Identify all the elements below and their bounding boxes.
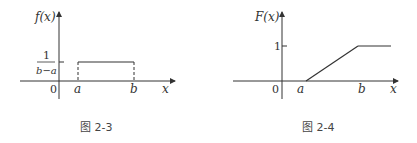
caption-fig-2-4: 图 2-4 (302, 121, 334, 134)
x-tick-a: a (297, 82, 304, 96)
x-tick-a: a (74, 82, 81, 96)
figure-2-4-cdf: F(x) 1 0 a b x 图 2-4 (233, 10, 398, 134)
y-axis-label: f(x) (34, 10, 56, 24)
frac-denominator: b−a (36, 65, 57, 76)
x-axis-label: x (162, 82, 169, 96)
origin-label: 0 (50, 83, 57, 96)
y-axis-label: F(x) (254, 10, 280, 24)
x-axis-label: x (390, 82, 397, 96)
figure-2-3-density: f(x) 1 b−a 0 a b x 图 2-3 (20, 10, 175, 134)
caption-fig-2-3: 图 2-3 (80, 121, 112, 134)
frac-numerator: 1 (43, 49, 50, 62)
cdf-ramp-line (306, 46, 358, 81)
figures-canvas: f(x) 1 b−a 0 a b x 图 2-3 F(x) 1 0 a b x … (0, 0, 417, 143)
y-tick-one-label: 1 (274, 40, 281, 53)
origin-label: 0 (272, 83, 279, 96)
x-tick-b: b (130, 82, 138, 96)
x-tick-b: b (358, 82, 366, 96)
